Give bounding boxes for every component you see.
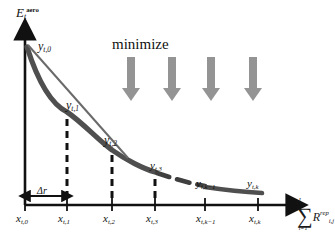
x-tick-label-x-t-1: xt,1 [58, 213, 70, 226]
curve-label-y-t-k: yt,k [247, 178, 259, 191]
x-tick-subscript: t,2 [108, 218, 115, 225]
minimize-arrow-3 [202, 57, 220, 101]
curve-label-subscript: t,0 [43, 45, 51, 54]
x-tick-label-x-t-3: xt,3 [146, 213, 158, 226]
delta-r-label: Δr [37, 186, 47, 196]
summation-term-subscript: i,j [329, 217, 334, 224]
curve-label-subscript: t,1 [71, 104, 79, 113]
curve-label-y-t-k-minus-1: yt,k−1 [196, 178, 216, 191]
curve-label-y-t-3: yt,3 [150, 160, 162, 173]
summation-term-superscript: rep [320, 209, 329, 216]
x-axis-label: ∑Ii=1Rrepi,j [297, 200, 334, 226]
y-axis-label-subscript: t [24, 12, 26, 21]
minimize-arrow-4 [244, 57, 262, 101]
curve-label-subscript: t,k−1 [201, 183, 216, 190]
x-tick-label-x-t-0: xt,0 [16, 213, 28, 226]
y-axis-label-base: E [16, 5, 24, 20]
x-tick-subscript: t,k−1 [201, 218, 216, 225]
minimize-arrows [122, 57, 262, 101]
minimize-arrow-1 [122, 57, 140, 101]
x-tick-subscript: t,k [254, 218, 261, 225]
curve-label-subscript: t,3 [155, 165, 162, 172]
delta-variable: r [43, 185, 47, 196]
y-axis-label: Etaero [16, 6, 39, 21]
summation-term-base: R [313, 210, 320, 224]
curve-label-y-t-2: yt,2 [104, 134, 117, 148]
y-axis-label-superscript: aero [26, 6, 39, 13]
curve-label-subscript: t,2 [109, 139, 117, 148]
x-tick-label-x-t-k: xt,k [249, 213, 261, 226]
x-tick-subscript: t,3 [151, 218, 158, 225]
minimize-arrow-2 [163, 57, 181, 101]
x-tick-subscript: t,1 [63, 218, 70, 225]
curve-label-y-t-0: yt,0 [38, 40, 51, 54]
minimize-annotation-text: minimize [112, 36, 169, 53]
x-tick-subscript: t,0 [21, 218, 28, 225]
decay-curve [27, 47, 262, 193]
x-tick-label-x-t-2: xt,2 [103, 213, 115, 226]
curve-label-subscript: t,k [252, 183, 259, 190]
x-tick-label-x-t-k-minus-1: xt,k−1 [196, 213, 216, 226]
summation-term: Rrepi,j [313, 209, 334, 225]
curve-label-y-t-1: yt,1 [66, 99, 79, 113]
